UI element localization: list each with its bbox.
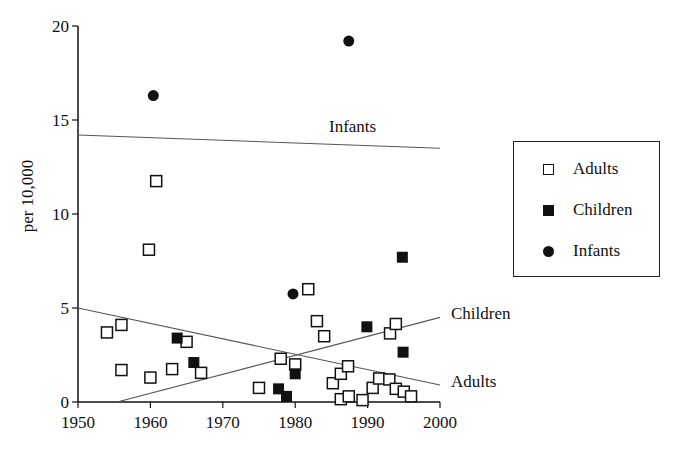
point-adults: [254, 382, 265, 393]
legend-label: Infants: [573, 241, 620, 261]
point-adults: [374, 373, 385, 384]
legend-label: Children: [573, 200, 633, 220]
y-tick-label: 20: [52, 17, 69, 36]
point-children: [397, 252, 408, 263]
x-tick-label: 2000: [423, 413, 457, 432]
data-points: [101, 36, 416, 406]
axes: 05101520195019601970198019902000: [52, 17, 457, 432]
point-adults: [343, 361, 354, 372]
y-tick-label: 0: [61, 393, 70, 412]
filled-circle-icon: [543, 246, 554, 257]
point-adults: [303, 284, 314, 295]
point-adults: [357, 395, 368, 406]
point-adults: [116, 365, 127, 376]
x-tick-label: 1960: [133, 413, 167, 432]
legend-label: Adults: [573, 159, 618, 179]
point-children: [281, 391, 292, 402]
trend-line-infants: [78, 135, 440, 148]
point-adults: [167, 364, 178, 375]
x-tick-label: 1950: [61, 413, 95, 432]
trend-label-adults: Adults: [451, 372, 496, 391]
trend-lines: [78, 135, 440, 402]
open-square-icon: [543, 164, 554, 175]
point-adults: [181, 336, 192, 347]
legend-item-children: Children: [514, 200, 633, 220]
point-adults: [151, 176, 162, 187]
trend-label-infants: Infants: [329, 117, 376, 136]
point-adults: [145, 372, 156, 383]
point-infants: [148, 90, 159, 101]
point-adults: [319, 331, 330, 342]
y-tick-label: 15: [52, 111, 69, 130]
point-adults: [406, 391, 417, 402]
point-children: [290, 368, 301, 379]
point-adults: [390, 318, 401, 329]
x-tick-label: 1990: [351, 413, 385, 432]
point-children: [398, 347, 409, 358]
point-adults: [196, 367, 207, 378]
trend-annotations: AdultsChildrenInfants: [329, 117, 511, 391]
legend-item-adults: Adults: [514, 159, 618, 179]
point-children: [172, 333, 183, 344]
point-children: [361, 321, 372, 332]
point-adults: [101, 327, 112, 338]
point-adults: [143, 244, 154, 255]
filled-square-icon: [543, 205, 554, 216]
x-tick-label: 1980: [278, 413, 312, 432]
trend-label-children: Children: [451, 304, 511, 323]
y-tick-label: 10: [52, 205, 69, 224]
point-adults: [116, 319, 127, 330]
legend: Adults Children Infants: [513, 141, 660, 277]
point-adults: [275, 353, 286, 364]
point-adults: [290, 359, 301, 370]
point-adults: [311, 316, 322, 327]
y-tick-label: 5: [61, 299, 70, 318]
x-tick-label: 1970: [206, 413, 240, 432]
point-infants: [343, 36, 354, 47]
legend-item-infants: Infants: [514, 241, 620, 261]
point-infants: [288, 288, 299, 299]
y-axis-label: per 10,000: [18, 160, 38, 233]
point-children: [188, 357, 199, 368]
point-adults: [343, 391, 354, 402]
